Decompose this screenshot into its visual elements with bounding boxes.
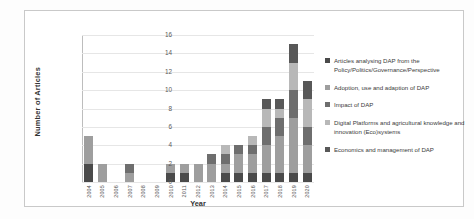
- bar-segment: [262, 145, 271, 173]
- y-tick-label: 16: [132, 32, 172, 38]
- x-tick-label: 2012: [195, 185, 201, 198]
- legend-label: Articles analysing DAP from the Policy/P…: [334, 57, 474, 75]
- x-tick-label: 2006: [113, 185, 119, 198]
- x-tick-label: 2013: [209, 185, 215, 198]
- x-axis-title: Year: [82, 199, 314, 208]
- bar-segment: [303, 99, 312, 127]
- bar-segment: [262, 109, 271, 127]
- bar-segment: [194, 164, 203, 182]
- bar-segment: [303, 173, 312, 182]
- bar-2017: [262, 99, 271, 182]
- y-tick-label: 8: [132, 106, 172, 112]
- bar-segment: [275, 118, 284, 136]
- bar-segment: [262, 127, 271, 145]
- gridline: [82, 90, 314, 91]
- bar-segment: [221, 173, 230, 182]
- legend-label: Digital Platforms and agricultural knowl…: [334, 119, 474, 137]
- y-tick-label: 0: [132, 179, 172, 185]
- bar-segment: [289, 63, 298, 91]
- legend-swatch-icon: [325, 58, 330, 63]
- bar-segment: [207, 164, 216, 182]
- bar-segment: [180, 164, 189, 173]
- x-tick-label: 2016: [250, 185, 256, 198]
- gridline: [82, 72, 314, 73]
- x-tick-label: 2014: [222, 185, 228, 198]
- y-tick-label: 6: [132, 124, 172, 130]
- x-tick-label: 2018: [277, 185, 283, 198]
- bar-segment: [275, 99, 284, 108]
- screenshot-root: Number of Articles Year 2004200520062007…: [0, 0, 474, 219]
- x-tick-label: 2009: [154, 185, 160, 198]
- y-tick-label: 4: [132, 142, 172, 148]
- legend-item[interactable]: Adoption, use and adaption of DAP: [325, 84, 474, 93]
- legend-swatch-icon: [325, 120, 330, 125]
- bar-2011: [180, 164, 189, 182]
- bar-segment: [262, 99, 271, 108]
- bar-2019: [289, 44, 298, 182]
- x-tick-label: 2015: [236, 185, 242, 198]
- x-tick-label: 2005: [99, 185, 105, 198]
- legend-item[interactable]: Digital Platforms and agricultural knowl…: [325, 119, 474, 137]
- x-tick-label: 2017: [263, 185, 269, 198]
- bar-segment: [289, 90, 298, 118]
- bar-segment: [303, 145, 312, 173]
- bar-2018: [275, 99, 284, 182]
- bar-segment: [248, 145, 257, 154]
- bar-2015: [234, 145, 243, 182]
- bar-segment: [98, 164, 107, 182]
- bar-2004: [84, 136, 93, 182]
- gridline: [82, 182, 314, 183]
- x-tick-label: 2010: [168, 185, 174, 198]
- x-tick-label: 2004: [86, 185, 92, 198]
- bar-segment: [303, 127, 312, 145]
- bar-2013: [207, 154, 216, 182]
- y-tick-label: 10: [132, 87, 172, 93]
- y-axis-title: Number of Articles: [33, 67, 42, 136]
- y-tick-label: 14: [132, 50, 172, 56]
- legend-label: Impact of DAP: [334, 101, 373, 110]
- bar-2012: [194, 164, 203, 182]
- bar-segment: [303, 81, 312, 99]
- legend-item[interactable]: Impact of DAP: [325, 101, 474, 110]
- bar-segment: [275, 173, 284, 182]
- bar-segment: [289, 118, 298, 173]
- bar-segment: [180, 173, 189, 182]
- bar-segment: [248, 173, 257, 182]
- legend-item[interactable]: Economics and management of DAP: [325, 146, 474, 155]
- gridline: [82, 35, 314, 36]
- bar-segment: [275, 109, 284, 118]
- bar-segment: [234, 145, 243, 154]
- bar-segment: [248, 154, 257, 172]
- plot-area: 2004200520062007200820092010201120122013…: [82, 35, 314, 182]
- bar-segment: [234, 154, 243, 172]
- y-tick-label: 2: [132, 161, 172, 167]
- legend-label: Economics and management of DAP: [334, 146, 434, 155]
- bar-segment: [289, 44, 298, 62]
- bar-segment: [84, 136, 93, 164]
- x-tick-label: 2011: [181, 185, 187, 197]
- bar-2014: [221, 145, 230, 182]
- bar-segment: [234, 173, 243, 182]
- bar-segment: [221, 145, 230, 154]
- bar-2005: [98, 164, 107, 182]
- gridline: [82, 53, 314, 54]
- bar-segment: [221, 154, 230, 163]
- bar-segment: [289, 173, 298, 182]
- bar-segment: [275, 136, 284, 173]
- legend-label: Adoption, use and adaption of DAP: [334, 84, 429, 93]
- bar-segment: [207, 154, 216, 163]
- legend-swatch-icon: [325, 85, 330, 90]
- bar-2020: [303, 81, 312, 182]
- bar-segment: [248, 136, 257, 145]
- y-tick-label: 12: [132, 69, 172, 75]
- x-tick-label: 2020: [304, 185, 310, 198]
- bar-2016: [248, 136, 257, 182]
- bar-segment: [84, 164, 93, 182]
- bar-segment: [262, 173, 271, 182]
- x-tick-label: 2008: [140, 185, 146, 198]
- legend-item[interactable]: Articles analysing DAP from the Policy/P…: [325, 57, 474, 75]
- chart-figure: Number of Articles Year 2004200520062007…: [24, 10, 464, 207]
- chart-legend: Articles analysing DAP from the Policy/P…: [325, 57, 474, 164]
- x-tick-label: 2007: [127, 185, 133, 198]
- x-tick-label: 2019: [291, 185, 297, 198]
